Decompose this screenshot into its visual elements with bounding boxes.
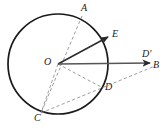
- geometry-figure: A E O D' B D C: [0, 0, 168, 133]
- point-label-D-prime: D': [142, 49, 151, 59]
- point-label-O: O: [44, 57, 51, 67]
- radius-segment-OC: [41, 64, 58, 113]
- point-label-D: D: [105, 82, 112, 92]
- radius-segment-OD: [58, 64, 103, 88]
- geometry-canvas: [0, 0, 168, 133]
- point-label-A: A: [81, 3, 87, 13]
- point-label-E: E: [112, 29, 118, 39]
- ray-segment-OE: [58, 37, 108, 64]
- ray-segment-OB: [58, 63, 150, 64]
- point-label-C: C: [34, 113, 41, 123]
- point-label-B: B: [153, 60, 159, 70]
